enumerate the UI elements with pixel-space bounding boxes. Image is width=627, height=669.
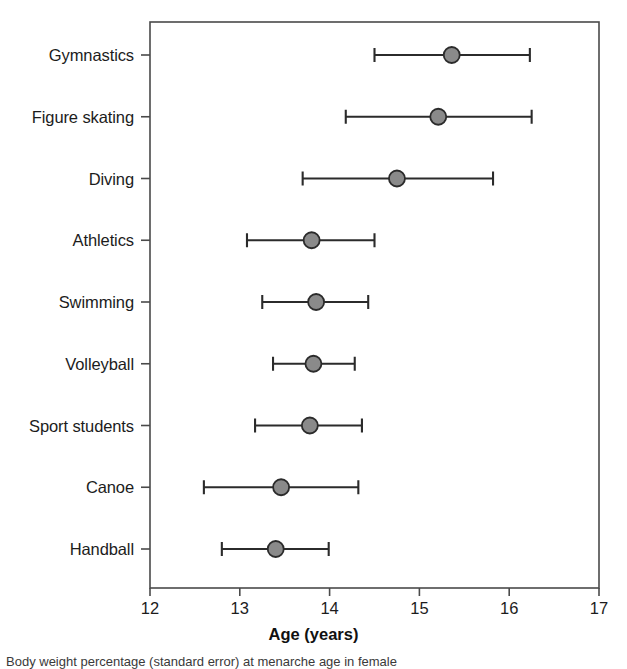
data-point-marker [430,109,446,125]
category-label: Sport students [29,416,134,435]
x-tick-label: 12 [141,599,159,618]
x-axis-title: Age (years) [0,625,627,644]
category-label: Volleyball [65,354,134,373]
data-point-marker [273,479,289,495]
category-label: Canoe [86,478,134,497]
x-tick-label: 14 [320,599,338,618]
axis-ticks [141,55,599,596]
category-label: Diving [89,169,134,188]
data-point-marker [268,541,284,557]
data-point-marker [302,418,318,434]
x-tick-label: 17 [590,599,608,618]
data-point-marker [308,294,324,310]
x-tick-label: 13 [231,599,249,618]
plot-frame [150,22,599,588]
data-point-marker [444,47,460,63]
category-axis-labels: GymnasticsFigure skatingDivingAthleticsS… [0,0,134,664]
figure-caption: Body weight percentage (standard error) … [6,654,621,669]
data-point-marker [305,356,321,372]
data-series [204,47,532,557]
plot-border [150,22,599,588]
category-label: Figure skating [32,107,134,126]
data-point-marker [304,232,320,248]
category-label: Gymnastics [49,46,134,65]
data-point-marker [389,171,405,187]
x-tick-label: 15 [410,599,428,618]
category-label: Athletics [73,231,134,250]
category-label: Swimming [59,293,134,312]
x-tick-label: 16 [500,599,518,618]
category-label: Handball [70,540,134,559]
